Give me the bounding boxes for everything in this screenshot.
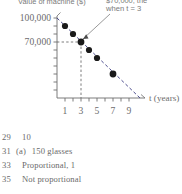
x-tick-label-3: 3 [79,105,84,116]
x-tick-label-1: 1 [63,105,68,116]
x-axis-title: t (years) [149,93,179,103]
x-tick-label-9: 9 [127,105,132,116]
y-axis-title: Value of machine ($) [18,0,86,6]
data-point [62,23,68,29]
list-item: 33 Proportional, 1 [0,158,182,172]
value-of-machine-figure: Value of machine ($) $70,000, the when t… [0,0,182,128]
list-item: 29 10 [0,130,182,144]
answer-text: Not proportional [22,172,81,186]
data-point [70,31,76,37]
data-point [110,71,117,78]
y-tick-marks [54,18,58,90]
callout-line-2: when t = 3 [105,4,141,13]
highlight-guide-lines [57,42,81,98]
x-tick-label-7: 7 [111,105,116,116]
data-point-highlighted [78,39,85,46]
y-axis-cap [57,13,61,17]
answer-part-label: (a) [16,144,32,158]
y-tick-label-100000: 100,000 [20,12,51,23]
callout-leader-line [83,14,110,39]
data-point [86,47,92,53]
answer-text: 10 [22,130,31,144]
answer-key-list: 29 10 31 (a) 150 glasses 33 Proportional… [0,130,182,186]
answer-text: Proportional, 1 [22,158,75,172]
list-item: 35 Not proportional [0,172,182,186]
x-tick-label-5: 5 [95,105,100,116]
y-tick-label-70000: 70,000 [25,36,52,47]
x-tick-marks [65,98,129,102]
answer-number: 29 [0,130,16,144]
answer-number: 31 [0,144,16,158]
data-point [94,55,100,61]
answer-text: 150 glasses [32,144,73,158]
answer-number: 33 [0,158,16,172]
answer-number: 35 [0,172,16,186]
x-axis-arrow-icon [141,95,145,99]
list-item: 31 (a) 150 glasses [0,144,182,158]
